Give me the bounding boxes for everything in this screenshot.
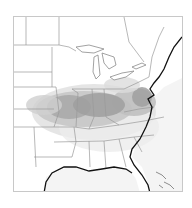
- map-canvas: [14, 17, 183, 192]
- map-frame: Eastern United States: [13, 16, 183, 192]
